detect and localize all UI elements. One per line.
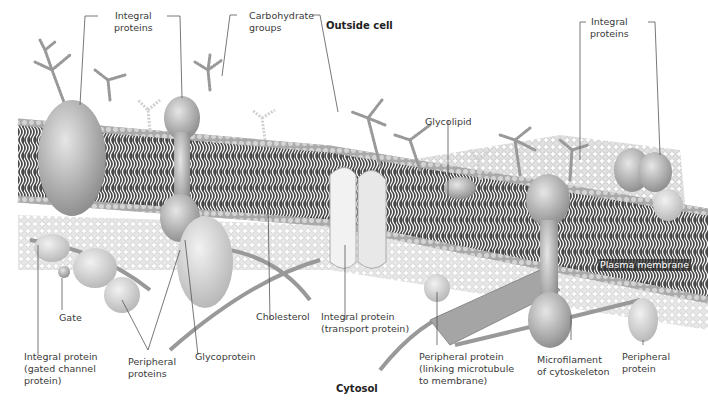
label-microfilament: Microfilament of cytoskeleton [537, 354, 610, 378]
label-integral-proteins-left: Integral proteins [114, 10, 153, 34]
label-integral-protein-gated: Integral protein (gated channel protein) [24, 351, 98, 387]
label-peripheral-protein: Peripheral protein [622, 351, 670, 375]
peripheral-protein-right [628, 298, 658, 342]
label-cholesterol: Cholesterol [256, 311, 310, 323]
label-plasma-membrane: Plasma membrane [598, 259, 691, 271]
membrane-illustration [0, 0, 708, 411]
label-glycolipid: Glycolipid [425, 116, 472, 128]
label-glycoprotein: Glycoprotein [195, 351, 255, 363]
glycolipid-pore [444, 177, 476, 199]
label-integral-protein-transport: Integral protein (transport protein) [321, 311, 409, 335]
label-integral-proteins-right: Integral proteins [590, 16, 629, 40]
label-peripheral-protein-linking: Peripheral protein (linking microtubule … [419, 351, 514, 387]
outside-cell-label: Outside cell [326, 20, 393, 31]
label-carbohydrate-groups: Carbohydrate groups [249, 10, 314, 34]
gated-channel-protein [34, 234, 70, 278]
cytosol-label: Cytosol [336, 383, 378, 394]
label-peripheral-proteins: Peripheral proteins [128, 356, 176, 380]
integral-protein-large-left [38, 100, 106, 216]
transport-protein [330, 168, 386, 269]
label-gate: Gate [59, 312, 82, 324]
